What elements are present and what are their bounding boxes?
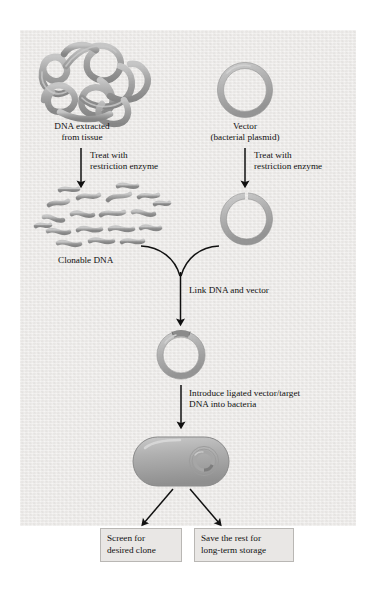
label-treat-restriction-right: Treat with restriction enzyme bbox=[254, 150, 322, 172]
box-screen-for-clone[interactable]: Screen for desired clone bbox=[100, 528, 182, 562]
box-save-for-storage[interactable]: Save the rest for long-term storage bbox=[194, 528, 294, 562]
label-clonable-dna: Clonable DNA bbox=[58, 255, 113, 266]
label-introduce-bacteria: Introduce ligated vector/target DNA into… bbox=[189, 388, 300, 410]
figure-canvas: DNA extracted from tissue Vector (bacter… bbox=[0, 0, 381, 593]
figure-panel bbox=[20, 30, 356, 526]
label-treat-restriction-left: Treat with restriction enzyme bbox=[90, 150, 158, 172]
label-vector: Vector (bacterial plasmid) bbox=[196, 121, 294, 143]
label-link-dna-vector: Link DNA and vector bbox=[189, 285, 269, 296]
label-dna-extracted: DNA extracted from tissue bbox=[39, 121, 125, 143]
